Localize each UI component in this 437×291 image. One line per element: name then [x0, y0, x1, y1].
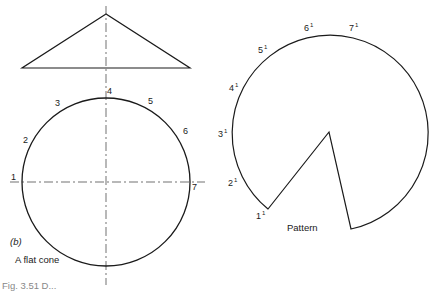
cropped-caption: Fig. 3.51 D... [2, 280, 56, 291]
plan-point-label: 6 [183, 127, 188, 136]
pattern-point-label: 31 [218, 127, 227, 139]
plan-point-label: 7 [192, 183, 197, 192]
pattern-point-label: 71 [349, 21, 358, 33]
pattern-sector [232, 35, 428, 229]
plan-point-label: 2 [23, 136, 28, 145]
plan-point-label: 3 [55, 99, 60, 108]
plan-point-label: 4 [107, 87, 112, 96]
figure-sublabel: (b) [10, 236, 22, 247]
pattern-point-label: 61 [304, 21, 313, 33]
figure-title: A flat cone [15, 254, 59, 265]
plan-point-label: 1 [11, 173, 16, 182]
plan-point-label: 5 [148, 97, 153, 106]
pattern-point-label: 11 [256, 209, 265, 221]
pattern-point-label: 41 [229, 81, 238, 93]
pattern-point-label: 21 [228, 176, 237, 188]
pattern-label: Pattern [287, 222, 318, 233]
pattern-point-label: 51 [258, 43, 267, 55]
